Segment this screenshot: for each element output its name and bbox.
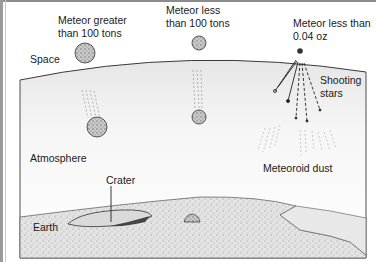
- label-meteor-small-line2: 0.04 oz: [293, 30, 371, 43]
- label-crater: Crater: [106, 174, 135, 187]
- large-meteor-space: [75, 43, 95, 63]
- label-meteor-medium-line1: Meteor less: [166, 4, 230, 17]
- label-meteor-small-line1: Meteor less than: [293, 17, 371, 30]
- label-meteor-small: Meteor less than 0.04 oz: [293, 17, 371, 43]
- label-meteor-medium: Meteor less than 100 tons: [166, 4, 230, 30]
- label-space: Space: [30, 53, 60, 66]
- large-meteor-atmosphere: [87, 117, 107, 137]
- label-meteor-large-line2: than 100 tons: [58, 27, 127, 40]
- label-meteor-large-line1: Meteor greater: [58, 14, 127, 27]
- tiny-meteor: [297, 48, 303, 54]
- label-shooting-stars: Shooting stars: [320, 74, 361, 100]
- label-shooting-stars-line1: Shooting: [320, 74, 361, 87]
- medium-meteor-space: [192, 36, 206, 50]
- label-shooting-stars-line2: stars: [320, 87, 361, 100]
- label-meteoroid-dust: Meteoroid dust: [263, 162, 332, 175]
- label-atmosphere: Atmosphere: [30, 152, 87, 165]
- medium-meteor-atmosphere: [192, 110, 206, 124]
- label-meteor-medium-line2: than 100 tons: [166, 17, 230, 30]
- label-earth: Earth: [33, 221, 58, 234]
- label-meteor-large: Meteor greater than 100 tons: [58, 14, 127, 40]
